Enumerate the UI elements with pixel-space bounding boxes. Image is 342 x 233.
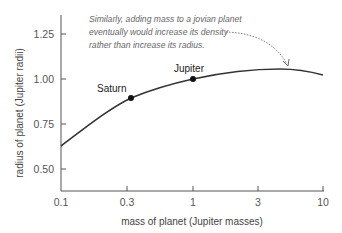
jupiter-label: Jupiter — [174, 63, 205, 74]
y-tick-label: 0.75 — [34, 118, 55, 130]
x-tick-label: 0.3 — [120, 196, 135, 208]
y-tick-label: 0.50 — [34, 163, 55, 175]
jupiter-point — [190, 76, 196, 82]
annotation-line-3: rather than increase its radius. — [89, 40, 205, 50]
annotation-arrow — [226, 32, 287, 64]
x-tick-label: 0.1 — [54, 196, 69, 208]
y-axis-title: radius of planet (Jupiter radii) — [14, 48, 25, 178]
arrowhead-icon — [283, 59, 289, 66]
saturn-point — [128, 95, 134, 101]
saturn-label: Saturn — [97, 83, 126, 94]
x-tick-label: 3 — [255, 196, 261, 208]
mass-radius-chart: 0.50 0.75 1.00 1.25 0.1 0.3 1 3 10 mass … — [0, 0, 342, 233]
x-axis-title: mass of planet (Jupiter masses) — [121, 216, 263, 227]
annotation-line-1: Similarly, adding mass to a jovian plane… — [89, 14, 242, 24]
y-ticks — [61, 34, 66, 169]
x-ticks — [127, 186, 323, 191]
annotation-line-2: eventually would increase its density — [89, 27, 229, 37]
x-tick-label: 1 — [190, 196, 196, 208]
y-tick-label: 1.00 — [34, 73, 55, 85]
x-tick-label: 10 — [317, 196, 329, 208]
y-tick-label: 1.25 — [34, 28, 55, 40]
